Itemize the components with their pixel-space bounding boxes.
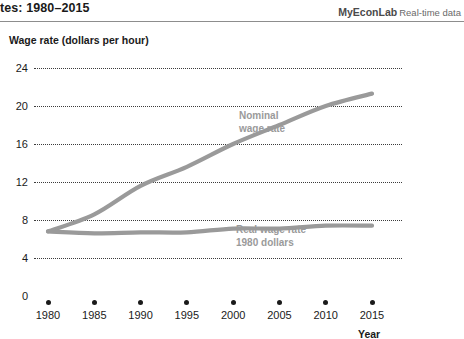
brand-name: MyEconLab [338,6,397,18]
x-axis-title: Year [358,328,380,339]
brand-subtitle: Real-time data [399,7,461,18]
real-wage-rate-label: Real wage rate 1980 dollars [236,224,306,249]
x-tick-label-2000: 2000 [213,310,253,321]
real-wage-rate-line [48,225,372,233]
x-tick-dot-2015 [370,300,375,305]
x-tick-label-1980: 1980 [28,310,68,321]
x-tick-dot-2005 [277,300,282,305]
x-tick-dot-2000 [231,300,236,305]
plot-area [0,24,464,339]
x-tick-label-2010: 2010 [306,310,346,321]
nominal-wage-rate-line [48,94,372,232]
real-label-line1: Real wage rate [236,224,306,237]
nominal-label-line2: wage rate [239,123,285,136]
real-label-line2: 1980 dollars [236,237,306,250]
nominal-wage-rate-label: Nominal wage rate [239,110,285,135]
brand-badge: MyEconLabReal-time data [338,3,461,19]
x-tick-dot-1985 [92,300,97,305]
page-title: tes: 1980–2015 [0,1,90,15]
wage-rate-line-chart: Wage rate (dollars per hour) 04812162024… [0,24,464,339]
nominal-label-line1: Nominal [239,110,285,123]
x-tick-label-2005: 2005 [259,310,299,321]
header-divider [0,21,464,22]
x-tick-dot-1980 [46,300,51,305]
page-header: tes: 1980–2015 MyEconLabReal-time data [0,0,464,24]
x-tick-label-1995: 1995 [167,310,207,321]
x-tick-label-2015: 2015 [352,310,392,321]
x-tick-label-1990: 1990 [121,310,161,321]
x-tick-label-1985: 1985 [74,310,114,321]
